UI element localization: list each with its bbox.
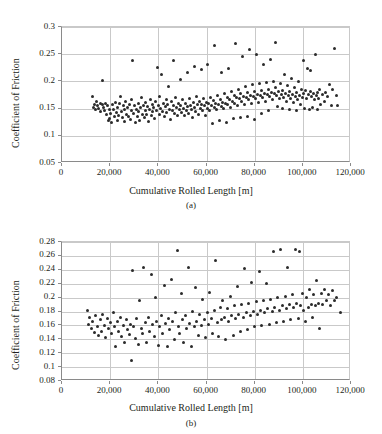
data-point: [142, 104, 145, 107]
data-point: [282, 320, 285, 323]
data-point: [331, 289, 334, 292]
data-point: [323, 100, 326, 103]
data-point: [276, 105, 279, 108]
data-point: [269, 58, 272, 61]
x-tick-label: 100,000: [287, 168, 316, 177]
data-point: [289, 97, 292, 100]
data-point: [182, 341, 185, 344]
data-point: [185, 327, 188, 330]
data-point: [149, 98, 152, 101]
y-tick-mark: [58, 283, 61, 284]
gridline-horizontal: [62, 242, 349, 243]
data-point: [167, 317, 170, 320]
data-point: [288, 303, 291, 306]
data-point: [113, 115, 116, 118]
data-point: [265, 282, 268, 285]
data-point: [168, 328, 171, 331]
data-point: [138, 299, 141, 302]
data-point: [292, 101, 295, 104]
data-point: [100, 330, 103, 333]
data-point: [304, 320, 307, 323]
data-point: [123, 341, 126, 344]
data-point: [206, 63, 209, 66]
data-point: [154, 296, 157, 299]
data-point: [318, 88, 321, 91]
data-point: [128, 103, 131, 106]
gridline-horizontal: [62, 54, 349, 55]
data-point: [197, 334, 200, 337]
data-point: [204, 114, 207, 117]
data-point: [283, 73, 286, 76]
data-point: [151, 110, 154, 113]
data-point: [262, 299, 265, 302]
data-point: [176, 114, 179, 117]
data-point: [166, 103, 169, 106]
gridline-horizontal: [62, 136, 349, 137]
data-point: [176, 249, 179, 252]
data-point: [144, 109, 147, 112]
data-point: [275, 321, 278, 324]
data-point: [225, 121, 228, 124]
y-tick-label: 0.08: [0, 376, 55, 385]
data-point: [294, 248, 297, 251]
figure-container: Coefficient of Friction 0.050.10.150.20.…: [0, 0, 382, 434]
data-point: [260, 324, 263, 327]
y-tick-label: 0.22: [0, 278, 55, 287]
data-point: [333, 47, 336, 50]
data-point: [196, 103, 199, 106]
x-tick-mark: [109, 381, 110, 384]
data-point: [316, 91, 319, 94]
data-point: [267, 109, 270, 112]
data-point: [227, 320, 230, 323]
data-point: [144, 101, 147, 104]
y-tick-mark: [58, 269, 61, 270]
data-point: [126, 328, 129, 331]
data-point: [186, 71, 189, 74]
data-point: [221, 299, 224, 302]
data-point: [315, 279, 318, 282]
data-point: [117, 330, 120, 333]
data-point: [216, 94, 219, 97]
data-point: [232, 334, 235, 337]
y-tick-mark: [58, 241, 61, 242]
data-point: [94, 314, 97, 317]
data-point: [153, 117, 156, 120]
data-point: [239, 330, 242, 333]
data-point: [220, 318, 223, 321]
x-tick-label: 0: [59, 168, 64, 177]
data-point: [99, 110, 102, 113]
data-point: [271, 98, 274, 101]
data-point: [327, 293, 330, 296]
data-point: [189, 104, 192, 107]
data-point: [165, 111, 168, 114]
data-point: [302, 92, 305, 95]
data-point: [248, 48, 251, 51]
data-point: [219, 306, 222, 309]
y-tick-label: 0.16: [0, 320, 55, 329]
data-point: [218, 119, 221, 122]
data-point: [125, 318, 128, 321]
y-tick-mark: [58, 366, 61, 367]
data-point: [320, 292, 323, 295]
data-point: [263, 311, 266, 314]
data-point: [195, 95, 198, 98]
plot-area-a: [61, 26, 350, 162]
data-point: [188, 97, 191, 100]
data-point: [246, 115, 249, 118]
data-point: [141, 332, 144, 335]
x-tick-mark: [157, 381, 158, 384]
data-point: [174, 96, 177, 99]
data-point: [195, 320, 198, 323]
data-point: [154, 100, 157, 103]
data-point: [233, 304, 236, 307]
gridline-horizontal: [62, 256, 349, 257]
y-tick-label: 0.28: [0, 237, 55, 246]
data-point: [86, 309, 89, 312]
data-point: [116, 320, 119, 323]
x-tick-label: 100,000: [287, 386, 316, 395]
data-point: [169, 118, 172, 121]
y-tick-label: 0.2: [0, 292, 55, 301]
data-point: [311, 316, 314, 319]
data-point: [181, 318, 184, 321]
data-point: [295, 109, 298, 112]
